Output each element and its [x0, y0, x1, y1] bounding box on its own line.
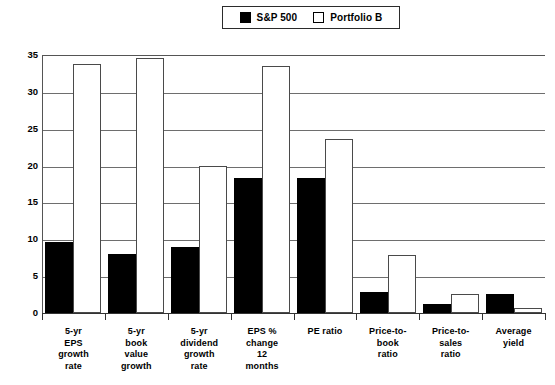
bar-portfolio-b: [325, 139, 353, 313]
y-tick-label: 35: [16, 50, 38, 60]
x-axis-category-label: Price-to-bookratio: [356, 326, 419, 361]
legend-label-portfolio-b: Portfolio B: [330, 12, 382, 23]
gridline: [43, 93, 545, 94]
bar-sp500: [297, 178, 325, 313]
x-tick-mark: [419, 313, 420, 320]
x-tick-mark: [42, 313, 43, 320]
bar-sp500: [486, 294, 514, 313]
bar-portfolio-b: [199, 166, 227, 313]
x-axis-category-label: Averageyield: [482, 326, 545, 349]
x-tick-mark: [482, 313, 483, 320]
bar-portfolio-b: [73, 64, 101, 313]
x-tick-mark: [545, 313, 546, 320]
x-axis-category-label: Price-to-salesratio: [419, 326, 482, 361]
x-axis-category-label: 5-yrdividendgrowthrate: [168, 326, 231, 372]
bar-portfolio-b: [451, 294, 479, 313]
bar-chart: S&P 500 Portfolio B 35302520151050 5-yrE…: [0, 0, 555, 385]
legend-swatch-portfolio-b: [313, 12, 324, 23]
bar-portfolio-b: [514, 308, 542, 313]
bar-portfolio-b: [262, 66, 290, 313]
y-tick-label: 15: [16, 197, 38, 207]
x-tick-mark: [105, 313, 106, 320]
bar-sp500: [108, 254, 136, 313]
legend-entry-portfolio-b: Portfolio B: [313, 12, 382, 23]
y-axis: 35302520151050: [8, 0, 38, 385]
legend-entry-sp500: S&P 500: [240, 12, 298, 23]
x-tick-mark: [168, 313, 169, 320]
bar-sp500: [360, 292, 388, 313]
bar-sp500: [45, 242, 73, 313]
x-axis-category-label: EPS %change12months: [231, 326, 294, 372]
y-tick-label: 30: [16, 87, 38, 97]
y-tick-label: 25: [16, 124, 38, 134]
bar-sp500: [234, 178, 262, 313]
x-tick-mark: [294, 313, 295, 320]
gridline: [43, 130, 545, 131]
y-tick-label: 10: [16, 234, 38, 244]
bar-portfolio-b: [136, 58, 164, 313]
gridline: [43, 167, 545, 168]
y-tick-label: 20: [16, 161, 38, 171]
legend-swatch-sp500: [240, 12, 251, 23]
x-tick-mark: [356, 313, 357, 320]
bar-portfolio-b: [388, 255, 416, 313]
bar-sp500: [423, 304, 451, 313]
x-tick-mark: [231, 313, 232, 320]
bar-sp500: [171, 247, 199, 313]
gridline: [43, 203, 545, 204]
x-axis-category-label: 5-yrbookvaluegrowth: [105, 326, 168, 372]
gridline: [43, 240, 545, 241]
y-tick-label: 5: [16, 271, 38, 281]
legend-label-sp500: S&P 500: [257, 12, 298, 23]
y-tick-label: 0: [16, 308, 38, 318]
x-axis-category-label: 5-yrEPSgrowthrate: [42, 326, 105, 372]
x-axis-category-label: PE ratio: [294, 326, 357, 338]
chart-legend: S&P 500 Portfolio B: [222, 6, 400, 29]
